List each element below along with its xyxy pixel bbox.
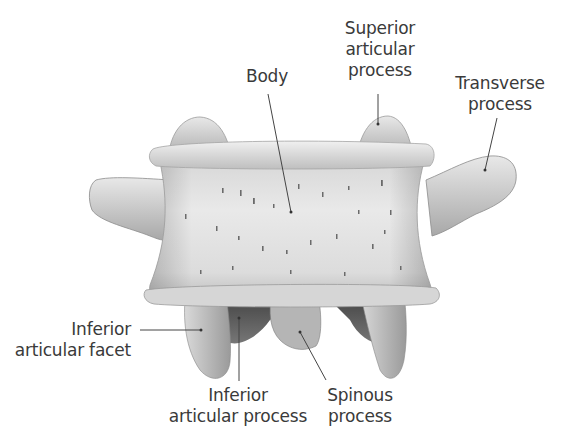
superior-rim — [149, 141, 434, 169]
label-transverse-process: Transverse process — [440, 73, 560, 115]
label-superior-articular-process: Superior articular process — [330, 18, 430, 81]
transverse-process-right — [426, 156, 516, 236]
label-spinous-process: Spinous process — [320, 385, 400, 427]
label-inferior-articular-facet: Inferior articular facet — [0, 319, 131, 361]
label-inferior-articular-process: Inferior articular process — [158, 385, 318, 427]
transverse-process-left — [89, 178, 172, 241]
label-body: Body — [222, 66, 312, 87]
inferior-rim — [144, 284, 439, 307]
